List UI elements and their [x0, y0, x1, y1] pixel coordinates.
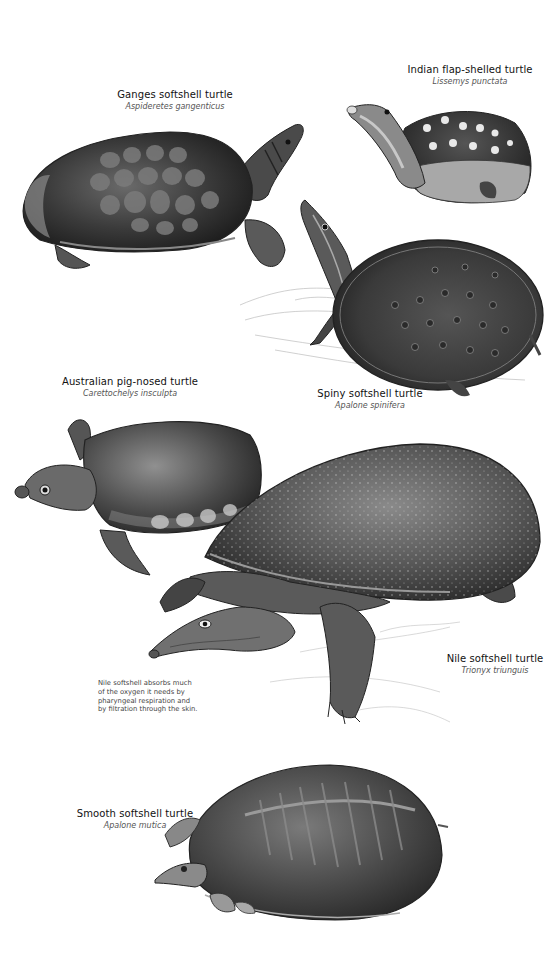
species-label-spiny: Spiny softshell turtle Apalone spinifera [290, 388, 450, 411]
species-label-indian-flap: Indian flap-shelled turtle Lissemys punc… [390, 64, 550, 87]
species-label-nile: Nile softshell turtle Trionyx triunguis [425, 653, 560, 676]
scientific-name: Apalone spinifera [290, 401, 450, 411]
common-name: Spiny softshell turtle [290, 388, 450, 401]
spiny-softshell-illustration [235, 195, 545, 405]
common-name: Ganges softshell turtle [95, 89, 255, 102]
note-line: by filtration through the skin. [98, 705, 248, 714]
scientific-name: Trionyx triunguis [425, 666, 560, 676]
common-name: Australian pig-nosed turtle [40, 376, 220, 389]
note-line: Nile softshell absorbs much [98, 679, 248, 688]
species-label-ganges: Ganges softshell turtle Aspideretes gang… [95, 89, 255, 112]
scientific-name: Aspideretes gangenticus [95, 102, 255, 112]
species-label-pig-nosed: Australian pig-nosed turtle Carettochely… [40, 376, 220, 399]
scientific-name: Carettochelys insculpta [40, 389, 220, 399]
nile-respiration-note: Nile softshell absorbs much of the oxyge… [98, 679, 248, 714]
indian-flap-shelled-illustration [345, 98, 535, 208]
smooth-softshell-illustration [150, 755, 450, 930]
scientific-name: Lissemys punctata [390, 77, 550, 87]
common-name: Indian flap-shelled turtle [390, 64, 550, 77]
common-name: Nile softshell turtle [425, 653, 560, 666]
note-line: pharyngeal respiration and [98, 697, 248, 706]
note-line: of the oxygen it needs by [98, 688, 248, 697]
